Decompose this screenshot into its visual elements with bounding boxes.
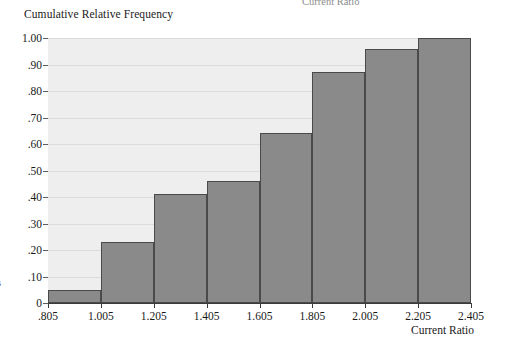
y-axis-title: Cumulative Relative Frequency [24, 8, 173, 20]
y-tick-label: .70 [28, 112, 42, 124]
y-tick-label: .10 [28, 271, 42, 283]
bar [48, 290, 101, 303]
y-tick-mark [43, 171, 48, 172]
bar [418, 38, 471, 303]
y-tick-label: 0 [36, 297, 42, 309]
cumulative-frequency-chart: Current Ratio s Cumulative Relative Freq… [0, 0, 519, 338]
bar [154, 194, 207, 303]
x-tick-mark [48, 303, 49, 308]
x-tick-label: 1.205 [141, 310, 167, 322]
y-tick-label: .80 [28, 85, 42, 97]
y-tick-label: .40 [28, 191, 42, 203]
x-tick-mark [471, 303, 472, 308]
y-tick-mark [43, 277, 48, 278]
x-tick-label: 2.005 [352, 310, 378, 322]
x-tick-label: 1.005 [88, 310, 114, 322]
y-tick-label: .90 [28, 59, 42, 71]
y-tick-label: .60 [28, 138, 42, 150]
x-tick-label: 2.405 [458, 310, 484, 322]
bars-layer [48, 38, 471, 303]
x-tick-mark [207, 303, 208, 308]
y-tick-label: .50 [28, 165, 42, 177]
clipped-top-axis-title: Current Ratio [302, 0, 359, 7]
y-tick-mark [43, 144, 48, 145]
x-tick-label: .805 [38, 310, 58, 322]
bar [101, 242, 154, 303]
x-tick-mark [365, 303, 366, 308]
x-tick-mark [312, 303, 313, 308]
y-tick-mark [43, 250, 48, 251]
y-tick-label: 1.00 [22, 32, 42, 44]
x-axis-title: Current Ratio [411, 324, 474, 336]
x-tick-label: 1.405 [194, 310, 220, 322]
x-tick-mark [101, 303, 102, 308]
x-tick-mark [154, 303, 155, 308]
bar [260, 133, 313, 303]
y-tick-label: .20 [28, 244, 42, 256]
x-tick-mark [418, 303, 419, 308]
y-tick-label: .30 [28, 218, 42, 230]
y-axis-ticks: 0.10.20.30.40.50.60.70.80.901.00 [0, 0, 42, 338]
x-tick-label: 2.205 [405, 310, 431, 322]
y-tick-mark [43, 224, 48, 225]
bar [207, 181, 260, 303]
x-tick-mark [260, 303, 261, 308]
y-tick-mark [43, 118, 48, 119]
x-tick-label: 1.605 [247, 310, 273, 322]
y-tick-mark [43, 197, 48, 198]
y-tick-mark [43, 38, 48, 39]
bar [365, 49, 418, 303]
plot-area [48, 38, 471, 303]
y-tick-mark [43, 91, 48, 92]
bar [312, 72, 365, 303]
y-tick-mark [43, 65, 48, 66]
x-tick-label: 1.805 [299, 310, 325, 322]
